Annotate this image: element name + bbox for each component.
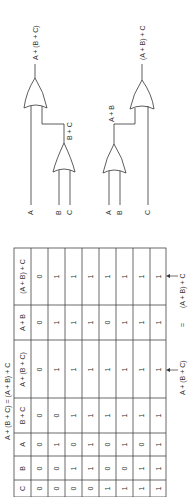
table-cell: 0 <box>31 480 48 497</box>
annotation-left: A + (B + C) <box>179 360 186 395</box>
table-cell: 0 <box>31 305 48 340</box>
table-cell: 1 <box>116 248 133 305</box>
table-cell: 0 <box>99 456 116 480</box>
table-cell: 0 <box>133 433 150 456</box>
table-cell: 1 <box>48 248 65 305</box>
table-cell: 1 <box>133 248 150 305</box>
annotation-right: (A + B) + C <box>179 273 186 308</box>
table-cell: 1 <box>48 340 65 398</box>
table-cell: 1 <box>82 248 99 305</box>
table-cell: 1 <box>150 456 167 480</box>
header-a-plus-b-plus-c: A + (B + C) <box>14 340 31 398</box>
table-cell: 1 <box>150 433 167 456</box>
table-cell: 1 <box>133 480 150 497</box>
table-cell: 0 <box>65 480 82 497</box>
header-b: B <box>14 456 31 480</box>
table-cell: 0 <box>99 433 116 456</box>
table-cell: 1 <box>133 340 150 398</box>
table-cell: 1 <box>65 248 82 305</box>
table-cell: 0 <box>48 456 65 480</box>
table-cell: 1 <box>65 340 82 398</box>
table-cell: 1 <box>99 340 116 398</box>
table-cell: 1 <box>150 305 167 340</box>
header-a: A <box>14 433 31 456</box>
table-cell: 1 <box>48 433 65 456</box>
table-cell: 1 <box>82 398 99 433</box>
table-cell: 1 <box>150 480 167 497</box>
table-cell: 0 <box>99 305 116 340</box>
table-cell: 0 <box>65 433 82 456</box>
header-c: C <box>14 480 31 497</box>
table-cell: 1 <box>65 398 82 433</box>
table-cell: 1 <box>116 340 133 398</box>
table-cell: 1 <box>82 456 99 480</box>
table-cell: 1 <box>133 456 150 480</box>
table-cell: 1 <box>82 340 99 398</box>
table-cell: 0 <box>31 398 48 433</box>
table-cell: 0 <box>48 480 65 497</box>
table-cell: 1 <box>150 340 167 398</box>
table-cell: 1 <box>116 433 133 456</box>
table-cell: 1 <box>99 248 116 305</box>
table-cell: 1 <box>150 248 167 305</box>
table-cell: 0 <box>31 433 48 456</box>
table-cell: 1 <box>99 480 116 497</box>
table-cell: 0 <box>48 398 65 433</box>
table-cell: 1 <box>150 398 167 433</box>
table-cell: 0 <box>31 340 48 398</box>
table-cell: 1 <box>48 305 65 340</box>
header-ab-plus-c: (A + B) + C <box>14 248 31 305</box>
table-cell: 1 <box>65 456 82 480</box>
header-a-plus-b: A + B <box>14 305 31 340</box>
table-cell: 0 <box>82 480 99 497</box>
table-cell: 1 <box>82 433 99 456</box>
table-cell: 1 <box>82 305 99 340</box>
annotation-equals: = <box>179 323 186 327</box>
table-cell: 1 <box>116 305 133 340</box>
table-cell: 0 <box>116 456 133 480</box>
table-cell: 1 <box>133 398 150 433</box>
table-cell: 1 <box>65 305 82 340</box>
table-cell: 1 <box>133 305 150 340</box>
table-cell: 1 <box>99 398 116 433</box>
table-cell: 1 <box>116 480 133 497</box>
table-cell: 1 <box>116 398 133 433</box>
table-cell: 0 <box>31 248 48 305</box>
header-b-plus-c: B + C <box>14 398 31 433</box>
table-cell: 0 <box>31 456 48 480</box>
